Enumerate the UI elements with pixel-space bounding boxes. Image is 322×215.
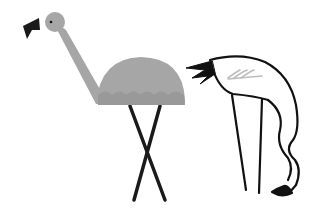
gray-flamingo: [23, 12, 185, 200]
flamingo-illustration: [0, 0, 322, 215]
outline-flamingo: [186, 56, 299, 195]
